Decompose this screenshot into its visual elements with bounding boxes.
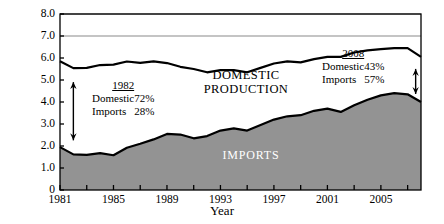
annotation-1982-imports-value: 28% (134, 105, 154, 118)
x-axis-title: Year (0, 203, 444, 219)
chart-figure: Billions of Barrels 01.02.03.04.05.06.07… (0, 0, 444, 224)
annotation-2008-imports-row: Imports 57% (322, 73, 384, 86)
annotation-1982-imports-label: Imports (92, 105, 126, 118)
annotation-2008-domestic-label: Domestic (322, 60, 364, 73)
domestic-production-area-label: DOMESTIC PRODUCTION (186, 68, 306, 96)
annotation-2008-domestic-row: Domestic 43% (322, 60, 384, 73)
annotation-2008-imports-value: 57% (364, 73, 384, 86)
annotation-1982-domestic-value: 72% (134, 92, 154, 105)
annotation-1982-domestic-label: Domestic (92, 92, 134, 105)
imports-area-label: IMPORTS (196, 148, 306, 163)
gridlines (60, 14, 421, 36)
chart-plot-area (0, 0, 444, 224)
domestic-label-line1: DOMESTIC (212, 68, 279, 82)
annotation-2008-domestic-value: 43% (364, 60, 384, 73)
domestic-label-line2: PRODUCTION (204, 82, 289, 96)
annotation-2008-imports-label: Imports (322, 73, 356, 86)
annotation-1982: 1982 Domestic 72% Imports 28% (92, 79, 154, 118)
annotation-1982-imports-row: Imports 28% (92, 105, 154, 118)
annotation-2008-year: 2008 (322, 47, 384, 60)
annotation-1982-year: 1982 (92, 79, 154, 92)
annotation-2008: 2008 Domestic 43% Imports 57% (322, 47, 384, 86)
annotation-1982-domestic-row: Domestic 72% (92, 92, 154, 105)
